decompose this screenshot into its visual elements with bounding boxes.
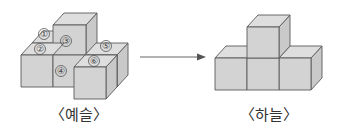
- right-cube-top: [247, 15, 290, 58]
- svg-text:⑥: ⑥: [90, 56, 98, 66]
- label-4: ④: [56, 66, 67, 77]
- left-figure-caption: 〈예슬〉: [50, 103, 108, 124]
- label-2: ②: [35, 44, 46, 55]
- svg-text:②: ②: [36, 44, 44, 54]
- svg-text:④: ④: [57, 66, 65, 76]
- svg-text:③: ③: [62, 36, 70, 46]
- right-cube-bottom-middle: [247, 58, 279, 90]
- right-cube-bottom-right: [279, 46, 322, 90]
- arrow-right-icon: [140, 54, 206, 61]
- label-5: ⑤: [101, 41, 112, 52]
- left-cube-structure: ① ② ③ ④ ⑤ ⑥: [21, 13, 128, 99]
- label-1: ①: [39, 29, 50, 40]
- svg-text:⑤: ⑤: [102, 41, 110, 51]
- label-3: ③: [61, 36, 72, 47]
- svg-text:①: ①: [40, 29, 48, 39]
- right-cube-structure: [215, 15, 322, 90]
- right-figure-caption: 〈하늘〉: [240, 103, 298, 124]
- label-6: ⑥: [89, 56, 100, 67]
